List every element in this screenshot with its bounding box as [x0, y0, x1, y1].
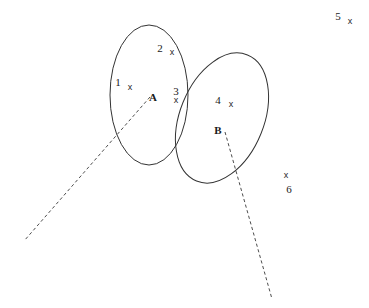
point-marker-4-x-icon: x [229, 99, 234, 109]
point-marker-6-x-icon: x [284, 170, 289, 180]
point-marker-1-x-icon: x [128, 82, 133, 92]
point-label-5: 5 [335, 10, 341, 22]
set-diagram: 1 x 2 x 3 x 4 x 5 x x 6 A B [0, 0, 369, 308]
point-marker-2-x-icon: x [170, 47, 175, 57]
point-marker-5-x-icon: x [348, 16, 353, 26]
point-label-1: 1 [115, 76, 121, 88]
set-ellipse-b [158, 39, 287, 197]
point-label-4: 4 [215, 94, 221, 106]
set-label-a: A [149, 91, 157, 103]
point-marker-3-x-icon: x [174, 95, 179, 105]
point-label-6: 6 [286, 183, 292, 195]
diagram-canvas: 1 x 2 x 3 x 4 x 5 x x 6 A B [0, 0, 369, 308]
leader-line-a [24, 97, 150, 241]
point-label-2: 2 [157, 42, 163, 54]
set-label-b: B [214, 124, 222, 136]
